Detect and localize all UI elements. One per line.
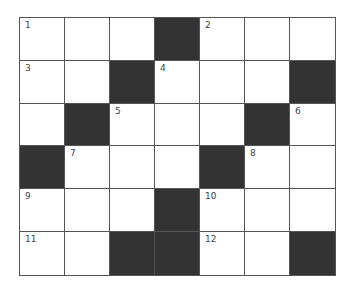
answer-cell[interactable] bbox=[65, 18, 110, 61]
answer-cell[interactable] bbox=[290, 189, 335, 232]
clue-number: 3 bbox=[25, 64, 31, 73]
clue-number: 7 bbox=[70, 149, 76, 158]
clue-number: 2 bbox=[205, 21, 211, 30]
answer-cell[interactable]: 11 bbox=[20, 232, 65, 275]
clue-number: 8 bbox=[250, 149, 256, 158]
block-cell bbox=[290, 232, 335, 275]
answer-cell[interactable]: 7 bbox=[65, 146, 110, 189]
answer-cell[interactable] bbox=[110, 146, 155, 189]
clue-number: 12 bbox=[205, 235, 216, 244]
clue-number: 9 bbox=[25, 192, 31, 201]
answer-cell[interactable]: 3 bbox=[20, 61, 65, 104]
block-cell bbox=[155, 189, 200, 232]
clue-number: 5 bbox=[115, 107, 121, 116]
block-cell bbox=[110, 232, 155, 275]
answer-cell[interactable]: 6 bbox=[290, 104, 335, 147]
answer-cell[interactable]: 1 bbox=[20, 18, 65, 61]
answer-cell[interactable]: 8 bbox=[245, 146, 290, 189]
block-cell bbox=[200, 146, 245, 189]
clue-number: 4 bbox=[160, 64, 166, 73]
answer-cell[interactable] bbox=[200, 61, 245, 104]
answer-cell[interactable] bbox=[245, 189, 290, 232]
answer-cell[interactable]: 2 bbox=[200, 18, 245, 61]
clue-number: 10 bbox=[205, 192, 216, 201]
answer-cell[interactable] bbox=[65, 189, 110, 232]
block-cell bbox=[110, 61, 155, 104]
answer-cell[interactable]: 10 bbox=[200, 189, 245, 232]
clue-number: 6 bbox=[295, 107, 301, 116]
answer-cell[interactable]: 5 bbox=[110, 104, 155, 147]
answer-cell[interactable]: 12 bbox=[200, 232, 245, 275]
answer-cell[interactable] bbox=[200, 104, 245, 147]
answer-cell[interactable] bbox=[20, 104, 65, 147]
answer-cell[interactable]: 9 bbox=[20, 189, 65, 232]
answer-cell[interactable] bbox=[245, 232, 290, 275]
answer-cell[interactable] bbox=[245, 18, 290, 61]
answer-cell[interactable] bbox=[290, 146, 335, 189]
answer-cell[interactable] bbox=[245, 61, 290, 104]
block-cell bbox=[20, 146, 65, 189]
answer-cell[interactable] bbox=[110, 189, 155, 232]
block-cell bbox=[65, 104, 110, 147]
answer-cell[interactable] bbox=[110, 18, 155, 61]
answer-cell[interactable] bbox=[155, 146, 200, 189]
crossword-grid: 123456789101112 bbox=[19, 17, 336, 276]
block-cell bbox=[290, 61, 335, 104]
block-cell bbox=[245, 104, 290, 147]
answer-cell[interactable] bbox=[65, 232, 110, 275]
block-cell bbox=[155, 18, 200, 61]
block-cell bbox=[155, 232, 200, 275]
answer-cell[interactable] bbox=[65, 61, 110, 104]
answer-cell[interactable] bbox=[155, 104, 200, 147]
answer-cell[interactable]: 4 bbox=[155, 61, 200, 104]
answer-cell[interactable] bbox=[290, 18, 335, 61]
clue-number: 1 bbox=[25, 21, 31, 30]
clue-number: 11 bbox=[25, 235, 36, 244]
